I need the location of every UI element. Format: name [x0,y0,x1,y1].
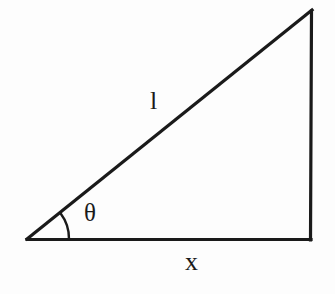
triangle-diagram: l x θ [0,0,335,294]
angle-label: θ [84,200,96,225]
triangle-hypotenuse-edge [27,10,312,239]
triangle-graphic [0,0,335,294]
hypotenuse-label: l [150,88,157,114]
triangle-vertical-edge [311,11,312,240]
base-label: x [185,249,198,275]
angle-arc-icon [61,213,70,239]
